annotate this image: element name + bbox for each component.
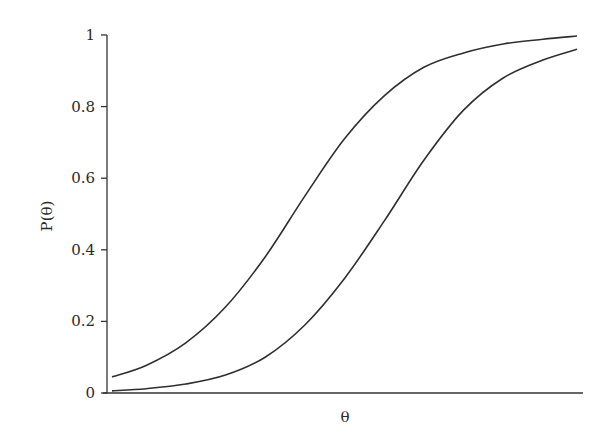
y-tick-label: 0 (85, 384, 95, 402)
y-tick-label: 0.8 (71, 98, 95, 116)
y-tick-label: 0.6 (71, 169, 95, 187)
curve-item-2 (112, 49, 577, 391)
y-axis-label: P(θ) (38, 201, 56, 232)
y-ticks: 00.20.40.60.81 (71, 26, 107, 402)
y-tick-label: 1 (85, 26, 95, 44)
x-axis-label: θ (340, 408, 349, 426)
curves (112, 36, 577, 391)
chart: 00.20.40.60.81 P(θ) θ (0, 0, 610, 447)
y-tick-label: 0.2 (71, 312, 95, 330)
curve-item-1 (112, 36, 577, 377)
y-tick-label: 0.4 (71, 241, 95, 259)
